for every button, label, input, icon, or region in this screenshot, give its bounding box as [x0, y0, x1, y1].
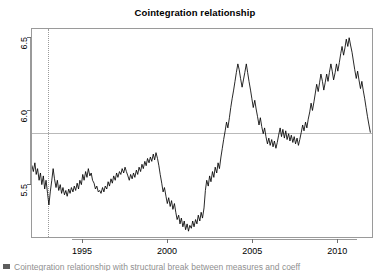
- series-clip: [32, 29, 372, 237]
- caption-marker-icon: [3, 264, 10, 269]
- chart-title: Cointegration relationship: [0, 7, 390, 18]
- line-series: [32, 29, 372, 237]
- x-tick-mark: [337, 239, 338, 243]
- x-tick-mark: [167, 239, 168, 243]
- plot-area: [31, 28, 373, 238]
- x-tick-label: 1995: [72, 246, 92, 256]
- x-tick-mark: [252, 239, 253, 243]
- x-tick-label: 2000: [157, 246, 177, 256]
- x-tick-label: 2010: [327, 246, 347, 256]
- chart-figure: Cointegration relationship 5.56.06.5 199…: [0, 0, 390, 271]
- figure-caption: Cointegration relationship with structur…: [0, 262, 390, 271]
- y-tick-label: 5.5: [19, 184, 29, 197]
- x-axis-line: [72, 239, 357, 240]
- y-tick-label: 6.0: [19, 110, 29, 123]
- x-tick-label: 2005: [242, 246, 262, 256]
- caption-text: Cointegration relationship with structur…: [14, 262, 300, 271]
- y-axis: 5.56.06.5: [0, 0, 31, 271]
- y-tick-label: 6.5: [19, 37, 29, 50]
- x-tick-mark: [82, 239, 83, 243]
